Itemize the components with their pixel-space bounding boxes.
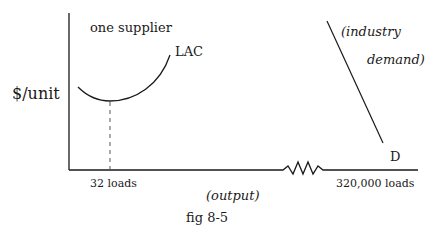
x-axis-label: (output) bbox=[206, 188, 260, 203]
figure-8-5: $/unit one supplier LAC (industry demand… bbox=[0, 0, 438, 248]
industry-label: (industry bbox=[341, 24, 401, 39]
tick-320000-loads: 320,000 loads bbox=[336, 177, 415, 190]
lac-curve bbox=[78, 55, 170, 101]
tick-32-loads: 32 loads bbox=[90, 177, 137, 190]
d-label: D bbox=[390, 149, 400, 164]
demand-label: demand) bbox=[367, 52, 425, 67]
figure-caption: fig 8-5 bbox=[186, 210, 228, 225]
y-axis-label: $/unit bbox=[12, 84, 60, 103]
lac-label: LAC bbox=[175, 44, 203, 59]
x-axis bbox=[69, 162, 418, 174]
one-supplier-label: one supplier bbox=[90, 20, 173, 35]
demand-line bbox=[327, 21, 383, 143]
